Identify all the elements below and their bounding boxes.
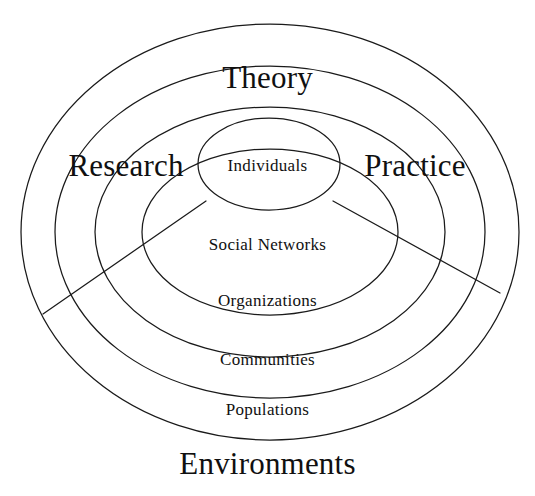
ring-label-social-networks: Social Networks: [0, 236, 535, 253]
caption-environments: Environments: [0, 448, 535, 479]
sector-label-research: Research: [46, 150, 206, 181]
ring-outline-communities: [55, 66, 485, 398]
sector-label-theory: Theory: [0, 62, 535, 93]
ring-outline-organizations: [95, 107, 445, 357]
ring-label-populations: Populations: [0, 401, 535, 418]
ring-label-communities: Communities: [0, 351, 535, 368]
diagram-canvas: Individuals Social Networks Organization…: [0, 0, 535, 496]
ring-label-organizations: Organizations: [0, 292, 535, 309]
sector-label-practice: Practice: [335, 150, 495, 181]
